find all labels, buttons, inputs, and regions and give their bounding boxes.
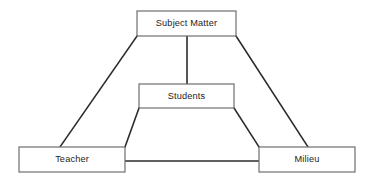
node-label-milieu: Milieu: [295, 154, 320, 164]
connector-subject-matter-to-milieu: [236, 36, 308, 147]
diagram-canvas: Subject Matter Students Teacher Milieu: [0, 0, 374, 180]
connector-students-to-milieu: [234, 108, 259, 147]
instructional-triangle-diagram: Subject Matter Students Teacher Milieu: [0, 0, 374, 180]
node-label-teacher: Teacher: [55, 154, 89, 164]
node-subject-matter[interactable]: Subject Matter: [137, 11, 236, 36]
node-milieu[interactable]: Milieu: [259, 147, 355, 172]
node-teacher[interactable]: Teacher: [19, 147, 125, 172]
node-students[interactable]: Students: [139, 84, 234, 108]
connector-subject-matter-to-teacher: [60, 36, 137, 147]
node-label-subject-matter: Subject Matter: [156, 18, 217, 28]
connector-students-to-teacher: [125, 108, 139, 147]
node-label-students: Students: [168, 91, 206, 101]
